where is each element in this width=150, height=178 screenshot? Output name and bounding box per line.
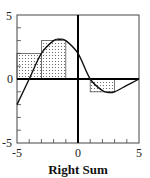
x-tick-label-zero: 0 (75, 146, 81, 160)
x-axis-label: Right Sum (48, 162, 108, 177)
right-sum-chart: 5 0 -5 -5 0 5 Right Sum (0, 0, 150, 178)
y-tick-label-top: 5 (6, 9, 12, 23)
y-tick-label-bottom: -5 (2, 136, 12, 150)
riemann-rectangle (41, 41, 65, 79)
x-tick-label-left: -5 (12, 146, 22, 160)
riemann-rectangles (17, 41, 115, 92)
x-tick-label-right: 5 (136, 146, 142, 160)
y-tick-label-zero: 0 (7, 72, 13, 86)
